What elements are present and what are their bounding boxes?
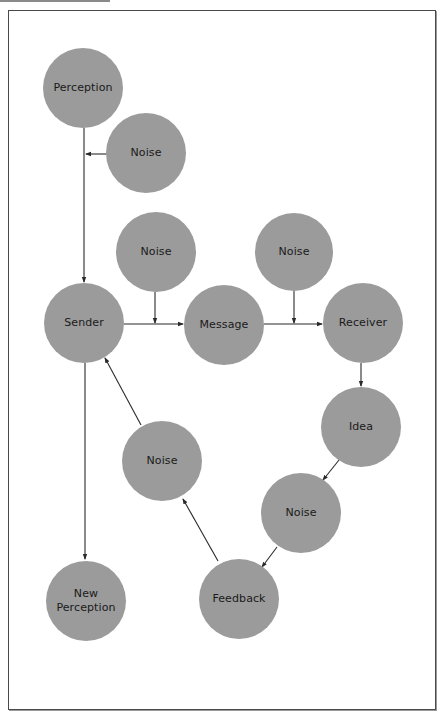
node-label: Noise [278, 245, 309, 259]
node-new-perception: New Perception [46, 561, 126, 641]
node-label-line2: Perception [56, 601, 115, 615]
node-label: Receiver [339, 316, 387, 330]
node-label: Noise [130, 146, 161, 160]
node-label: Message [200, 318, 249, 332]
node-label: Idea [349, 420, 373, 434]
node-idea: Idea [321, 387, 401, 467]
node-perception: Perception [43, 48, 123, 128]
node-noise-sender-message: Noise [116, 212, 196, 292]
node-noise-message-receiver: Noise [255, 213, 333, 291]
node-feedback: Feedback [199, 559, 279, 639]
node-noise-top: Noise [106, 113, 186, 193]
arrow-noise-to-feedback [262, 547, 277, 567]
node-noise-idea-feedback: Noise [261, 473, 341, 553]
node-message: Message [184, 285, 264, 365]
node-label: Feedback [212, 592, 265, 606]
arrow-idea-to-noise [323, 460, 339, 480]
node-label-line1: New [74, 587, 98, 601]
node-label: Sender [64, 316, 104, 330]
arrow-feedback-to-noise [183, 499, 218, 561]
node-receiver: Receiver [323, 283, 403, 363]
node-label: Perception [53, 81, 112, 95]
node-label: Noise [285, 506, 316, 520]
arrow-noise-to-sender [105, 358, 141, 425]
node-noise-feedback-sender: Noise [122, 421, 202, 501]
node-label: Noise [146, 454, 177, 468]
node-sender: Sender [44, 283, 124, 363]
node-label: Noise [140, 245, 171, 259]
